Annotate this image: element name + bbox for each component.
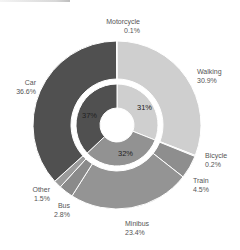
inner-label-public: 32% bbox=[118, 149, 133, 158]
label-walking-value: 30.9% bbox=[197, 77, 222, 86]
label-train: Train 4.5% bbox=[193, 177, 209, 194]
label-bicycle-name: Bicycle bbox=[205, 152, 227, 161]
label-walking-name: Walking bbox=[197, 68, 222, 77]
label-other: Other 1.5% bbox=[22, 186, 50, 203]
label-minibus-name: Minibus bbox=[125, 220, 149, 229]
label-train-name: Train bbox=[193, 177, 209, 186]
label-bus-value: 2.8% bbox=[40, 211, 70, 220]
inner-label-active: 31% bbox=[137, 103, 152, 112]
label-car-name: Car bbox=[0, 79, 36, 88]
nested-donut-chart bbox=[0, 0, 240, 250]
label-motorcycle: Motorcycle 0.1% bbox=[76, 18, 140, 35]
label-minibus-value: 23.4% bbox=[125, 229, 149, 238]
label-bus-name: Bus bbox=[40, 202, 70, 211]
label-car: Car 36.6% bbox=[0, 79, 36, 96]
label-train-value: 4.5% bbox=[193, 186, 209, 195]
label-bus: Bus 2.8% bbox=[40, 202, 70, 219]
label-walking: Walking 30.9% bbox=[197, 68, 222, 85]
label-motorcycle-value: 0.1% bbox=[76, 27, 140, 36]
label-bicycle-value: 0.2% bbox=[205, 161, 227, 170]
inner-label-private: 37% bbox=[82, 111, 97, 120]
label-bicycle: Bicycle 0.2% bbox=[205, 152, 227, 169]
label-minibus: Minibus 23.4% bbox=[125, 220, 149, 237]
label-motorcycle-name: Motorcycle bbox=[76, 18, 140, 27]
outer-slice-motorcycle bbox=[116, 41, 117, 79]
label-car-value: 36.6% bbox=[0, 88, 36, 97]
label-other-name: Other bbox=[22, 186, 50, 195]
